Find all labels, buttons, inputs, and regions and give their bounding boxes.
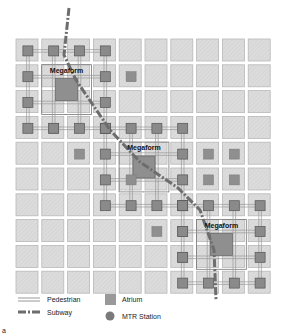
station-node — [100, 72, 110, 82]
station-node — [178, 278, 188, 288]
city-block — [248, 91, 270, 113]
atrium — [204, 149, 214, 159]
station-node — [152, 201, 162, 211]
city-block — [171, 91, 193, 113]
city-block — [197, 116, 219, 138]
station-node — [255, 201, 265, 211]
station-node — [49, 123, 59, 133]
city-block — [42, 271, 64, 293]
city-block — [119, 39, 141, 61]
atrium — [229, 175, 239, 185]
city-block — [16, 142, 38, 164]
panel-label: a — [2, 327, 6, 334]
city-block — [68, 271, 90, 293]
station-node — [75, 46, 85, 56]
city-block — [248, 65, 270, 87]
atrium — [126, 72, 136, 82]
legend-atrium: Atrium — [105, 294, 142, 305]
station-node — [75, 123, 85, 133]
atrium — [75, 149, 85, 159]
megaform-label: Megaform — [50, 67, 83, 75]
city-block — [93, 245, 115, 267]
station-node — [23, 72, 33, 82]
megaform-atrium — [56, 79, 78, 101]
legend-mtr-label: MTR Station — [122, 313, 161, 320]
atrium-swatch-icon — [105, 294, 116, 305]
city-block — [42, 245, 64, 267]
station-node — [126, 201, 136, 211]
legend: Pedestrian Subway Atrium MTR Station — [18, 294, 161, 321]
city-block — [145, 65, 167, 87]
station-node — [178, 252, 188, 262]
station-node — [178, 175, 188, 185]
city-block — [42, 168, 64, 190]
atrium — [152, 227, 162, 237]
legend-mtr: MTR Station — [106, 312, 162, 321]
city-block — [145, 91, 167, 113]
station-node — [126, 123, 136, 133]
station-node — [100, 46, 110, 56]
city-block — [68, 245, 90, 267]
city-block — [248, 142, 270, 164]
city-block — [222, 91, 244, 113]
atrium — [204, 175, 214, 185]
station-node — [178, 227, 188, 237]
city-block — [42, 194, 64, 216]
station-node — [255, 227, 265, 237]
station-node — [178, 149, 188, 159]
city-block — [248, 39, 270, 61]
city-block — [171, 65, 193, 87]
legend-subway-label: Subway — [47, 309, 72, 317]
legend-atrium-label: Atrium — [122, 296, 142, 303]
station-node — [255, 252, 265, 262]
city-block — [16, 220, 38, 242]
station-node — [100, 175, 110, 185]
city-block — [42, 220, 64, 242]
urban-megaform-diagram: MegaformMegaformMegaform Pedestrian Subw… — [0, 0, 286, 336]
city-block — [68, 220, 90, 242]
city-block — [222, 65, 244, 87]
legend-pedestrian-label: Pedestrian — [47, 296, 81, 303]
city-block — [68, 168, 90, 190]
station-node — [49, 46, 59, 56]
station-node — [178, 123, 188, 133]
station-node — [229, 201, 239, 211]
megaform-label: Megaform — [205, 222, 238, 230]
city-block — [197, 39, 219, 61]
legend-subway: Subway — [18, 309, 72, 317]
city-block — [145, 39, 167, 61]
atrium — [229, 149, 239, 159]
station-node — [204, 201, 214, 211]
atrium — [126, 175, 136, 185]
city-block — [93, 271, 115, 293]
station-node — [100, 201, 110, 211]
station-node — [100, 98, 110, 108]
station-node — [23, 46, 33, 56]
city-block — [222, 39, 244, 61]
city-block — [197, 91, 219, 113]
city-block — [222, 116, 244, 138]
station-node — [178, 201, 188, 211]
station-node — [100, 149, 110, 159]
city-block — [68, 194, 90, 216]
station-node — [204, 278, 214, 288]
city-block — [248, 168, 270, 190]
station-node — [229, 278, 239, 288]
city-block — [93, 220, 115, 242]
station-node — [23, 98, 33, 108]
city-block — [145, 271, 167, 293]
city-block — [119, 271, 141, 293]
station-node — [255, 278, 265, 288]
megaform-label: Megaform — [127, 144, 160, 152]
city-block — [42, 142, 64, 164]
station-node — [152, 123, 162, 133]
city-block — [16, 245, 38, 267]
city-block — [16, 194, 38, 216]
city-block — [16, 271, 38, 293]
mtr-station-icon — [106, 312, 115, 321]
legend-pedestrian: Pedestrian — [18, 296, 81, 303]
city-block — [248, 116, 270, 138]
city-block — [145, 245, 167, 267]
city-block — [16, 168, 38, 190]
city-block — [119, 91, 141, 113]
